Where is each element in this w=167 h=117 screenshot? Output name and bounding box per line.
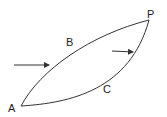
right-arrow [112, 51, 133, 52]
label-b: B [66, 36, 73, 48]
label-c: C [103, 83, 111, 95]
label-a: A [8, 102, 16, 114]
path-diagram: A B C P [0, 0, 167, 117]
path-c-curve [21, 20, 149, 106]
label-p: P [147, 8, 154, 20]
